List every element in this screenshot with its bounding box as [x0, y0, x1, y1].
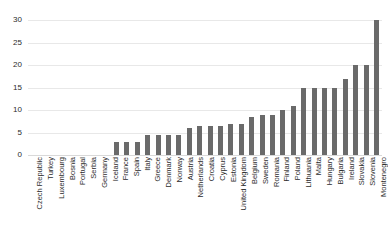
x-label-slot: Spain [125, 157, 136, 241]
x-label-slot: Estonia [221, 157, 232, 241]
bar-slot [90, 20, 100, 155]
bar-slot [319, 20, 329, 155]
bar-slot [174, 20, 184, 155]
x-axis-tick-labels: Czech RepublicTurkeyLuxembourgBosniaPort… [28, 157, 382, 241]
bar [249, 117, 254, 155]
y-axis-tick-label: 20 [0, 61, 22, 69]
bar-slot [267, 20, 277, 155]
x-label-slot: Romania [264, 157, 275, 241]
bar [124, 142, 129, 156]
x-label-slot: Greece [146, 157, 157, 241]
bar [291, 106, 296, 156]
x-label-slot: Denmark [157, 157, 168, 241]
x-label-slot: Iceland [103, 157, 114, 241]
bar [218, 126, 223, 155]
bar-slot [59, 20, 69, 155]
bar [270, 115, 275, 156]
x-label-slot: France [114, 157, 125, 241]
bar-slot [132, 20, 142, 155]
bar-slot [257, 20, 267, 155]
x-label-slot: United Kingdom [232, 157, 243, 241]
bar [114, 142, 119, 156]
bar-slot [38, 20, 48, 155]
y-axis-tick-label: 15 [0, 84, 22, 92]
y-axis-tick-label: 0 [0, 151, 22, 159]
bar [312, 88, 317, 156]
bar [343, 79, 348, 156]
bar-slot [70, 20, 80, 155]
bar [239, 124, 244, 156]
bar-slot [184, 20, 194, 155]
bar-slot [195, 20, 205, 155]
bar-slot [101, 20, 111, 155]
bar [187, 128, 192, 155]
x-label-slot: Slovakia [350, 157, 361, 241]
x-label-slot: Serbia [82, 157, 93, 241]
x-label-slot: Sweden [253, 157, 264, 241]
bar-slot [247, 20, 257, 155]
bar-slot [340, 20, 350, 155]
bar-slot [28, 20, 38, 155]
bar-slot [205, 20, 215, 155]
y-axis-tick-label: 25 [0, 39, 22, 47]
x-label-slot: Austria [178, 157, 189, 241]
bar [228, 124, 233, 156]
bar [176, 135, 181, 155]
bar [332, 88, 337, 156]
y-axis-tick-label: 10 [0, 106, 22, 114]
x-label-slot: Ireland [339, 157, 350, 241]
bar [197, 126, 202, 155]
bar [280, 110, 285, 155]
bar-slot [278, 20, 288, 155]
x-label-slot: Croatia [200, 157, 211, 241]
x-label-slot: Hungary [318, 157, 329, 241]
bar-series [28, 20, 382, 155]
bar-slot [163, 20, 173, 155]
x-label-slot: Finland [275, 157, 286, 241]
x-label-slot: Cyprus [210, 157, 221, 241]
bar-slot [236, 20, 246, 155]
x-label-slot: Italy [135, 157, 146, 241]
bar-slot [309, 20, 319, 155]
bar-slot [226, 20, 236, 155]
bar-slot [351, 20, 361, 155]
x-label-slot: Bosnia [60, 157, 71, 241]
bar-slot [299, 20, 309, 155]
bar-slot [111, 20, 121, 155]
bar [135, 142, 140, 156]
bar-slot [215, 20, 225, 155]
bar [364, 65, 369, 155]
x-label-slot: Poland [286, 157, 297, 241]
x-label-slot: Montenegro [372, 157, 383, 241]
x-label-slot: Belgium [243, 157, 254, 241]
bar [260, 115, 265, 156]
bar [322, 88, 327, 156]
bar [374, 20, 379, 155]
x-label-slot: Czech Republic [28, 157, 39, 241]
bar-slot [330, 20, 340, 155]
bar-slot [288, 20, 298, 155]
x-label-slot: Norway [168, 157, 179, 241]
bar-slot [371, 20, 381, 155]
bar [166, 135, 171, 155]
bar-slot [80, 20, 90, 155]
bar [208, 126, 213, 155]
bar-slot [142, 20, 152, 155]
bar-slot [153, 20, 163, 155]
bar [156, 135, 161, 155]
y-axis-tick-label: 5 [0, 129, 22, 137]
x-label-slot: Turkey [39, 157, 50, 241]
x-label-slot: Netherlands [189, 157, 200, 241]
plot-area [28, 20, 382, 155]
x-axis-tick-label: Montenegro [380, 157, 388, 197]
x-label-slot: Slovenia [361, 157, 372, 241]
gridline [28, 155, 382, 156]
bar-slot [122, 20, 132, 155]
x-label-slot: Malta [307, 157, 318, 241]
bar-slot [361, 20, 371, 155]
x-label-slot: Germany [92, 157, 103, 241]
bar [353, 65, 358, 155]
bar [301, 88, 306, 156]
x-label-slot: Lithuania [296, 157, 307, 241]
